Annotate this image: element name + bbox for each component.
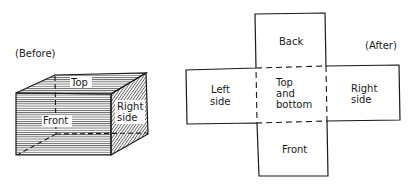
box-top-label: Top: [70, 77, 88, 88]
box-right-label-line2: side: [117, 112, 138, 123]
after-figure: (After) Back Left side Top and bottom Ri…: [186, 13, 400, 176]
box-right-label-line1: Right: [117, 101, 143, 112]
before-caption: (Before): [15, 48, 56, 59]
panel-back-label: Back: [279, 36, 303, 47]
after-caption: (After): [365, 40, 397, 51]
panel-right-label-line2: side: [351, 94, 372, 105]
box-unfolding-diagram: (Before) Top Front Right side (After): [0, 0, 416, 186]
panel-center-label-line1: Top: [275, 77, 293, 88]
panel-front-label: Front: [282, 144, 307, 155]
panel-center-label-line3: bottom: [276, 99, 312, 110]
panel-right-label-line1: Right: [351, 83, 377, 94]
panel-left-label-line1: Left: [211, 84, 230, 95]
panel-center-label-line2: and: [276, 88, 295, 99]
before-figure: (Before) Top Front Right side: [15, 48, 148, 155]
panel-left-label-line2: side: [210, 96, 231, 107]
box-front-label: Front: [43, 115, 68, 126]
